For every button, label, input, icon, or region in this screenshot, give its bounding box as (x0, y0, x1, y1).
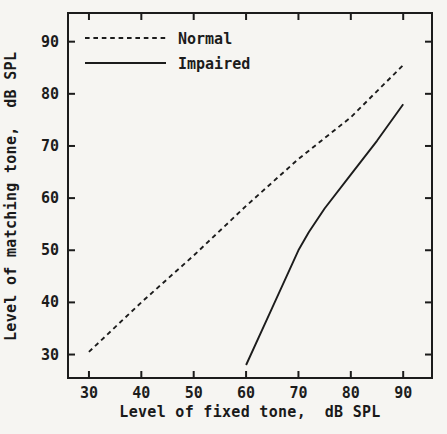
y-tick-label: 40 (41, 293, 59, 311)
x-tick-label: 80 (342, 384, 360, 402)
normal-series-line (89, 65, 403, 352)
x-tick-label: 70 (289, 384, 307, 402)
x-tick-label: 30 (80, 384, 98, 402)
y-axis-label: Level of matching tone, dB SPL (2, 13, 20, 379)
y-tick-label: 30 (41, 346, 59, 364)
legend-label-impaired: Impaired (178, 55, 250, 73)
y-tick-label: 90 (41, 33, 59, 51)
y-tick-label: 80 (41, 85, 59, 103)
chart-canvas: 3040506070809030405060708090NormalImpair… (0, 0, 447, 434)
x-tick-label: 60 (237, 384, 255, 402)
legend-label-normal: Normal (178, 30, 232, 48)
x-tick-label: 40 (132, 384, 150, 402)
impaired-series-line (246, 104, 403, 365)
x-axis-label: Level of fixed tone, dB SPL (68, 403, 432, 421)
figure: 3040506070809030405060708090NormalImpair… (0, 0, 447, 434)
y-tick-label: 50 (41, 241, 59, 259)
y-tick-label: 70 (41, 137, 59, 155)
x-tick-label: 50 (185, 384, 203, 402)
y-tick-label: 60 (41, 189, 59, 207)
x-tick-label: 90 (394, 384, 412, 402)
